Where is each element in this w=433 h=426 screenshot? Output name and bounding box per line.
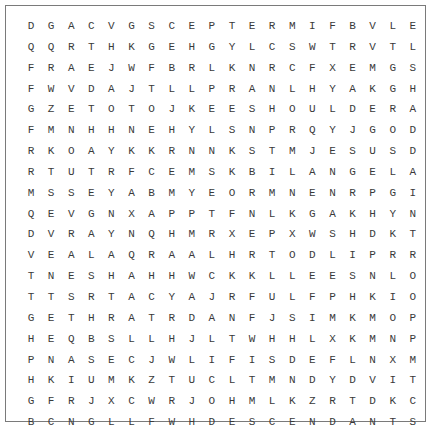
letter-cell[interactable]: X (322, 329, 342, 350)
letter-cell[interactable]: R (142, 245, 162, 266)
letter-cell[interactable]: I (202, 350, 222, 371)
letter-cell[interactable]: T (81, 99, 101, 120)
letter-cell[interactable]: G (41, 16, 61, 37)
letter-cell[interactable]: Y (322, 120, 342, 141)
letter-cell[interactable]: M (322, 308, 342, 329)
letter-cell[interactable]: L (162, 79, 182, 100)
letter-cell[interactable]: J (202, 287, 222, 308)
letter-cell[interactable]: H (262, 99, 282, 120)
letter-cell[interactable]: I (242, 350, 262, 371)
letter-cell[interactable]: G (81, 204, 101, 225)
letter-cell[interactable]: K (121, 141, 141, 162)
letter-cell[interactable]: K (343, 308, 363, 329)
letter-cell[interactable]: M (242, 391, 262, 412)
letter-cell[interactable]: A (101, 245, 121, 266)
letter-cell[interactable]: U (61, 162, 81, 183)
letter-cell[interactable]: M (403, 350, 423, 371)
letter-cell[interactable]: V (101, 16, 121, 37)
letter-cell[interactable]: J (142, 350, 162, 371)
letter-cell[interactable]: M (162, 183, 182, 204)
letter-cell[interactable]: D (202, 412, 222, 426)
letter-cell[interactable]: C (403, 391, 423, 412)
letter-cell[interactable]: H (162, 224, 182, 245)
letter-cell[interactable]: V (363, 37, 383, 58)
letter-cell[interactable]: G (383, 79, 403, 100)
letter-cell[interactable]: E (302, 350, 322, 371)
letter-cell[interactable]: D (21, 224, 41, 245)
letter-cell[interactable]: L (262, 204, 282, 225)
letter-cell[interactable]: R (383, 99, 403, 120)
letter-cell[interactable]: K (363, 79, 383, 100)
letter-cell[interactable]: Y (383, 204, 403, 225)
letter-cell[interactable]: V (61, 79, 81, 100)
letter-cell[interactable]: C (142, 287, 162, 308)
letter-cell[interactable]: O (61, 141, 81, 162)
letter-cell[interactable]: K (282, 391, 302, 412)
letter-cell[interactable]: R (21, 141, 41, 162)
letter-cell[interactable]: F (121, 162, 141, 183)
letter-cell[interactable]: G (202, 37, 222, 58)
letter-cell[interactable]: D (322, 412, 342, 426)
letter-cell[interactable]: A (81, 224, 101, 245)
letter-cell[interactable]: D (363, 224, 383, 245)
letter-cell[interactable]: K (41, 141, 61, 162)
letter-cell[interactable]: C (162, 16, 182, 37)
letter-cell[interactable]: N (182, 141, 202, 162)
letter-cell[interactable]: N (282, 370, 302, 391)
letter-cell[interactable]: W (302, 224, 322, 245)
letter-cell[interactable]: N (242, 120, 262, 141)
letter-cell[interactable]: K (142, 141, 162, 162)
letter-cell[interactable]: P (262, 120, 282, 141)
letter-cell[interactable]: X (222, 224, 242, 245)
letter-cell[interactable]: O (101, 99, 121, 120)
letter-cell[interactable]: I (262, 162, 282, 183)
letter-cell[interactable]: Q (61, 329, 81, 350)
letter-cell[interactable]: K (363, 287, 383, 308)
letter-cell[interactable]: R (242, 245, 262, 266)
letter-cell[interactable]: B (142, 183, 162, 204)
letter-cell[interactable]: R (162, 308, 182, 329)
letter-cell[interactable]: O (383, 120, 403, 141)
letter-cell[interactable]: R (182, 58, 202, 79)
letter-cell[interactable]: J (81, 391, 101, 412)
letter-cell[interactable]: Q (21, 204, 41, 225)
letter-cell[interactable]: H (222, 245, 242, 266)
letter-cell[interactable]: T (21, 287, 41, 308)
letter-cell[interactable]: S (383, 141, 403, 162)
letter-cell[interactable]: L (202, 329, 222, 350)
letter-cell[interactable]: K (121, 370, 141, 391)
letter-cell[interactable]: E (363, 99, 383, 120)
letter-cell[interactable]: H (222, 391, 242, 412)
letter-cell[interactable]: P (403, 329, 423, 350)
letter-cell[interactable]: P (162, 204, 182, 225)
letter-cell[interactable]: A (202, 308, 222, 329)
letter-cell[interactable]: P (363, 183, 383, 204)
letter-cell[interactable]: J (262, 308, 282, 329)
letter-cell[interactable]: D (343, 370, 363, 391)
letter-cell[interactable]: T (383, 37, 403, 58)
letter-cell[interactable]: X (101, 391, 121, 412)
letter-cell[interactable]: S (61, 183, 81, 204)
letter-cell[interactable]: T (41, 162, 61, 183)
letter-cell[interactable]: D (363, 391, 383, 412)
letter-cell[interactable]: R (343, 37, 363, 58)
letter-cell[interactable]: E (81, 183, 101, 204)
letter-cell[interactable]: I (403, 183, 423, 204)
letter-cell[interactable]: L (282, 162, 302, 183)
letter-cell[interactable]: X (121, 204, 141, 225)
letter-cell[interactable]: R (202, 224, 222, 245)
letter-cell[interactable]: Q (41, 37, 61, 58)
letter-cell[interactable]: X (282, 224, 302, 245)
letter-cell[interactable]: C (262, 412, 282, 426)
letter-cell[interactable]: L (383, 266, 403, 287)
letter-cell[interactable]: F (21, 79, 41, 100)
letter-cell[interactable]: N (61, 412, 81, 426)
letter-cell[interactable]: W (162, 350, 182, 371)
letter-cell[interactable]: F (41, 391, 61, 412)
letter-cell[interactable]: E (41, 329, 61, 350)
letter-cell[interactable]: S (242, 412, 262, 426)
letter-cell[interactable]: J (302, 141, 322, 162)
letter-cell[interactable]: L (262, 266, 282, 287)
letter-cell[interactable]: N (242, 58, 262, 79)
letter-cell[interactable]: M (182, 224, 202, 245)
